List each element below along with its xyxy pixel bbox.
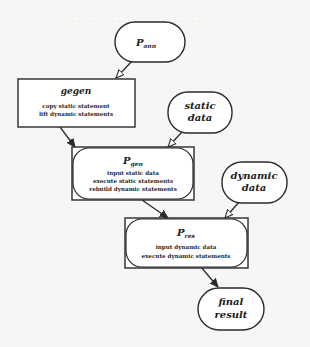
p-ann-subscript: ann xyxy=(143,42,156,49)
final-result-line-1: final xyxy=(218,296,244,307)
node-static-data: static data xyxy=(168,92,232,133)
p-gen-line-1: input static data xyxy=(107,170,159,177)
p-gen-line-3: rebuild dynamic statements xyxy=(89,186,177,193)
flow-diagram: Pann gegen copy static statement lift dy… xyxy=(0,0,310,347)
node-final-result: final result xyxy=(198,288,264,330)
p-res-line-2: execute dynamic statements xyxy=(141,253,230,260)
gegen-line-2: lift dynamic statements xyxy=(39,111,113,118)
dynamic-data-line-1: dynamic xyxy=(230,170,277,181)
edge-pres-to-final xyxy=(201,267,218,287)
p-gen-subscript: gen xyxy=(131,160,143,168)
gegen-title: gegen xyxy=(61,86,92,96)
p-res-subscript: res xyxy=(185,232,196,239)
node-gegen: gegen copy static statement lift dynamic… xyxy=(18,79,135,127)
edge-pann-to-gegen xyxy=(116,60,133,78)
edge-dynamic-to-pres xyxy=(225,201,240,218)
edge-static-to-pgen xyxy=(168,132,182,147)
p-gen-line-2: execute static statements xyxy=(93,178,173,184)
dynamic-data-line-2: data xyxy=(242,182,267,193)
edge-pgen-to-pres xyxy=(142,200,168,218)
node-p-res: Pres input dynamic data execute dynamic … xyxy=(125,218,248,268)
static-data-line-1: static xyxy=(184,100,215,111)
node-p-gen: Pgen input static data execute static st… xyxy=(72,147,194,200)
node-p-ann: Pann xyxy=(115,22,185,62)
static-data-line-2: data xyxy=(188,112,213,123)
final-result-line-2: result xyxy=(215,309,248,320)
gegen-line-1: copy static statement xyxy=(42,103,110,110)
p-res-line-1: input dynamic data xyxy=(156,244,217,251)
edge-gegen-to-pgen xyxy=(60,127,75,147)
node-dynamic-data: dynamic data xyxy=(222,162,287,203)
